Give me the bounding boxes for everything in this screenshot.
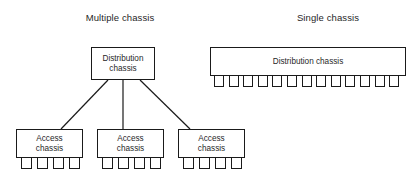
port[interactable] [389, 75, 399, 87]
port[interactable] [150, 157, 161, 169]
port[interactable] [360, 75, 370, 87]
section-title-multiple-chassis: Multiple chassis [0, 12, 240, 24]
network-topology-diagram: Multiple chassis Single chassis Distribu… [0, 0, 416, 179]
link-distribution-to-access-3 [140, 80, 190, 129]
link-distribution-to-access-1 [61, 80, 108, 129]
port[interactable] [53, 157, 64, 169]
port[interactable] [229, 75, 239, 87]
port[interactable] [316, 75, 326, 87]
distribution-chassis-multiple[interactable]: Distribution chassis [91, 47, 155, 80]
distribution-chassis-single[interactable]: Distribution chassis [210, 47, 406, 76]
port[interactable] [345, 75, 355, 87]
port[interactable] [302, 75, 312, 87]
port[interactable] [243, 75, 253, 87]
port[interactable] [214, 75, 224, 87]
access-chassis-3[interactable]: Access chassis [178, 129, 245, 158]
port[interactable] [69, 157, 80, 169]
access-chassis-3-label: Access chassis [196, 134, 227, 154]
access-chassis-1-label: Access chassis [34, 134, 65, 154]
port[interactable] [21, 157, 32, 169]
access-chassis-2-label: Access chassis [115, 134, 146, 154]
access-chassis-2-ports [102, 157, 161, 169]
port[interactable] [231, 157, 242, 169]
port[interactable] [134, 157, 145, 169]
access-chassis-3-ports [183, 157, 242, 169]
port[interactable] [37, 157, 48, 169]
access-chassis-1-ports [21, 157, 80, 169]
port[interactable] [375, 75, 385, 87]
access-chassis-1[interactable]: Access chassis [16, 129, 83, 158]
distribution-chassis-multiple-label: Distribution chassis [101, 54, 146, 74]
port[interactable] [118, 157, 129, 169]
port[interactable] [331, 75, 341, 87]
distribution-chassis-single-ports [214, 75, 399, 87]
port[interactable] [215, 157, 226, 169]
port[interactable] [102, 157, 113, 169]
distribution-chassis-single-label: Distribution chassis [271, 57, 346, 67]
access-chassis-2[interactable]: Access chassis [97, 129, 164, 158]
port[interactable] [272, 75, 282, 87]
section-title-single-chassis: Single chassis [240, 12, 416, 24]
port[interactable] [258, 75, 268, 87]
port[interactable] [287, 75, 297, 87]
port[interactable] [183, 157, 194, 169]
port[interactable] [199, 157, 210, 169]
